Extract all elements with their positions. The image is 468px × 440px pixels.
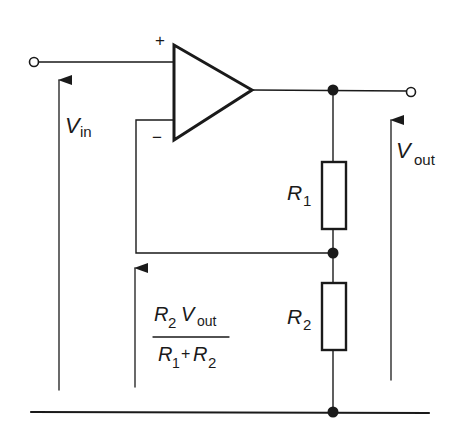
fraction-den-r2-sub: 2 (208, 354, 216, 371)
circuit-diagram: + − V in V out R 1 R 2 R 2 V out R 1 + R… (0, 0, 468, 440)
fraction-den-r1-sub: 1 (172, 355, 180, 371)
input-terminal (30, 58, 39, 67)
resistor-r2 (322, 283, 346, 350)
vin-subscript: in (80, 123, 92, 140)
fraction-num-v: V (181, 303, 196, 325)
r1-subscript: 1 (303, 192, 311, 209)
junction-feedback (328, 248, 339, 259)
fraction-num-r-sub: 2 (168, 314, 176, 331)
vout-subscript: out (414, 151, 436, 168)
vout-label: V (396, 138, 413, 163)
junction-output (328, 85, 339, 96)
fraction-num-v-sub: out (197, 313, 217, 329)
output-terminal (407, 88, 416, 97)
resistor-r1 (322, 162, 346, 229)
opamp-plus-label: + (155, 31, 165, 50)
r1-label: R (287, 181, 302, 204)
r2-subscript: 2 (303, 316, 311, 333)
fraction-num-r: R (154, 303, 168, 325)
feedback-wire (136, 120, 333, 253)
r2-label: R (287, 305, 302, 328)
junction-ground (328, 407, 339, 418)
opamp-symbol (174, 45, 252, 140)
fraction-den-r1: R (158, 343, 172, 365)
opamp-minus-label: − (152, 128, 162, 147)
fraction-den-r2: R (193, 343, 207, 365)
fraction-den-plus: + (181, 345, 190, 362)
ground-rail (31, 412, 429, 413)
